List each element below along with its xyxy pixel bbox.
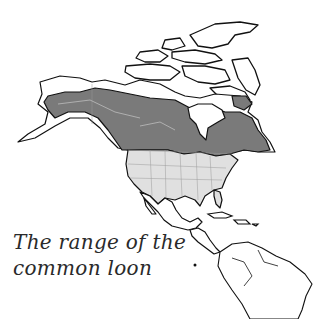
south-america (218, 242, 312, 319)
caribbean-islands (208, 212, 258, 226)
caption-line-1: The range of the (13, 229, 186, 255)
map-caption: The range of the common loon (13, 229, 186, 281)
caption-line-2: common loon (13, 255, 186, 281)
galapagos-dot (194, 264, 197, 267)
